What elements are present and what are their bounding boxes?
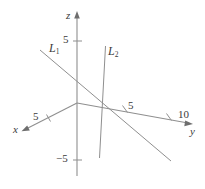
- x-axis-group: [22, 103, 78, 131]
- axes-and-lines-graphic: [0, 0, 205, 189]
- z-tick-label-minus-5: −5: [56, 153, 68, 164]
- line-L2-label-subscript: 2: [115, 50, 119, 59]
- line-L2: [100, 46, 106, 158]
- x-tick-label-5: 5: [33, 111, 39, 122]
- line-L1: [40, 50, 171, 161]
- line-L2-label: L2: [108, 45, 118, 58]
- y-tick-label-5: 5: [128, 100, 134, 111]
- line-L1-label-subscript: 1: [56, 47, 60, 56]
- z-axis-label: z: [66, 10, 70, 21]
- y-axis-group: [77, 103, 193, 126]
- line-L1-label: L1: [49, 42, 59, 55]
- z-axis-arrowhead: [74, 11, 80, 19]
- y-axis-label: y: [190, 126, 195, 137]
- line-L2-label-base: L: [108, 44, 115, 58]
- coordinate-system-figure: z x y 5 −5 5 5 10 L1 L2: [0, 0, 205, 189]
- x-axis-label: x: [13, 124, 18, 135]
- z-axis-group: [73, 11, 82, 176]
- x-axis-arrowhead: [22, 126, 30, 132]
- y-tick-label-10: 10: [178, 109, 189, 120]
- line-L1-label-base: L: [49, 41, 56, 55]
- z-tick-label-5: 5: [63, 34, 69, 45]
